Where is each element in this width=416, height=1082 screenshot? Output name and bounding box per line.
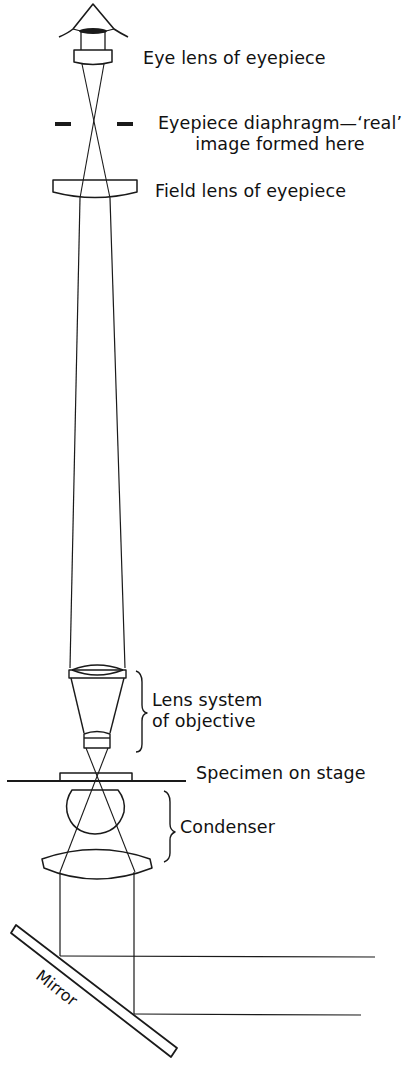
label-condenser: Condenser bbox=[180, 817, 275, 838]
brace-objective bbox=[136, 671, 147, 752]
objective-lens-system bbox=[69, 665, 126, 748]
illumination-rays bbox=[60, 872, 375, 1015]
eyepiece-rays bbox=[80, 64, 110, 198]
brace-condenser bbox=[164, 791, 175, 862]
label-field-lens: Field lens of eyepiece bbox=[155, 181, 346, 202]
label-objective-line1: Lens system bbox=[152, 690, 262, 711]
label-diaphragm-line1: Eyepiece diaphragm—‘real’ bbox=[145, 113, 415, 134]
label-eye-lens: Eye lens of eyepiece bbox=[143, 48, 326, 69]
label-diaphragm-line2: image formed here bbox=[145, 134, 415, 155]
label-eyepiece-diaphragm: Eyepiece diaphragm—‘real’ image formed h… bbox=[145, 113, 415, 155]
microscope-ray-diagram bbox=[0, 0, 416, 1082]
label-specimen: Specimen on stage bbox=[196, 763, 366, 784]
tube-rays bbox=[70, 198, 125, 668]
label-objective: Lens system of objective bbox=[152, 690, 262, 732]
label-objective-line2: of objective bbox=[152, 711, 262, 732]
condenser bbox=[42, 790, 152, 879]
mirror bbox=[11, 925, 177, 1057]
field-lens bbox=[53, 180, 137, 198]
eye-icon bbox=[59, 4, 128, 50]
eye-lens bbox=[74, 50, 112, 65]
